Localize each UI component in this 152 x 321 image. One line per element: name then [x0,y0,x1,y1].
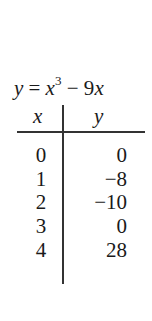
cell-y: −10 [70,190,127,214]
cell-x: 4 [34,238,48,262]
column-header-x: x [33,104,42,128]
cell-y: 28 [70,238,127,262]
equation-term: 9x [84,76,104,100]
cell-x: 1 [34,167,48,191]
cell-x: 3 [34,214,48,238]
cell-x: 0 [34,143,48,167]
minus-sign: − [62,76,84,100]
equation-lhs: y [14,76,24,100]
equals-sign: = [24,76,46,100]
equation-base: x [46,76,56,100]
cell-x: 2 [34,190,48,214]
equation-title: y=x3−9x [14,76,104,101]
cell-y: 0 [70,143,127,167]
table-header-rule [17,131,145,133]
cell-y: 0 [70,214,127,238]
column-header-y: y [94,104,103,128]
equation-exponent: 3 [55,73,62,88]
cell-y: −8 [70,167,127,191]
